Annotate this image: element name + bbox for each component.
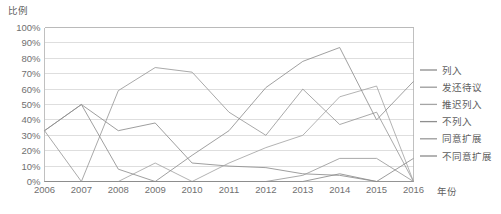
y-tick-label: 50% <box>21 99 41 110</box>
series-group <box>45 48 414 182</box>
legend-label: 推迟列入 <box>442 99 482 110</box>
chart-canvas: 0%10%20%30%40%50%60%70%80%90%100% 200620… <box>0 0 501 214</box>
y-tick-label: 80% <box>21 53 41 64</box>
legend-label: 不列入 <box>442 116 472 127</box>
y-tick-label: 90% <box>21 37 41 48</box>
series-line-3 <box>45 86 414 181</box>
x-axis-title: 年份 <box>437 186 457 197</box>
y-axis-tick-labels: 0%10%20%30%40%50%60%70%80%90%100% <box>16 22 41 187</box>
line-chart: 0%10%20%30%40%50%60%70%80%90%100% 200620… <box>0 0 501 214</box>
x-tick-label: 2009 <box>145 184 166 195</box>
legend-label: 列入 <box>442 65 462 76</box>
y-tick-label: 10% <box>21 161 41 172</box>
legend-label: 发还待议 <box>442 82 482 93</box>
x-tick-label: 2014 <box>329 184 350 195</box>
x-tick-label: 2016 <box>403 184 424 195</box>
legend-label: 同意扩展 <box>442 133 482 144</box>
x-tick-label: 2006 <box>34 184 55 195</box>
y-axis-title: 比例 <box>8 5 28 16</box>
x-axis-tick-labels: 2006200720082009201020112012201320142015… <box>34 184 424 195</box>
x-tick-label: 2011 <box>219 184 239 195</box>
y-tick-label: 60% <box>21 84 41 95</box>
x-tick-label: 2007 <box>71 184 92 195</box>
x-tick-label: 2013 <box>292 184 313 195</box>
chart-legend: 列入发还待议推迟列入不列入同意扩展不同意扩展 <box>420 65 492 162</box>
y-tick-label: 100% <box>16 22 41 33</box>
y-tick-label: 40% <box>21 114 41 125</box>
y-tick-label: 30% <box>21 130 41 141</box>
series-line-1 <box>45 105 414 182</box>
x-tick-label: 2010 <box>182 184 203 195</box>
x-tick-label: 2015 <box>366 184 387 195</box>
series-line-4 <box>45 48 414 182</box>
y-tick-label: 70% <box>21 68 41 79</box>
legend-label: 不同意扩展 <box>442 151 492 162</box>
y-tick-label: 20% <box>21 145 41 156</box>
x-tick-label: 2008 <box>108 184 129 195</box>
x-tick-label: 2012 <box>255 184 276 195</box>
series-line-6 <box>45 158 414 181</box>
